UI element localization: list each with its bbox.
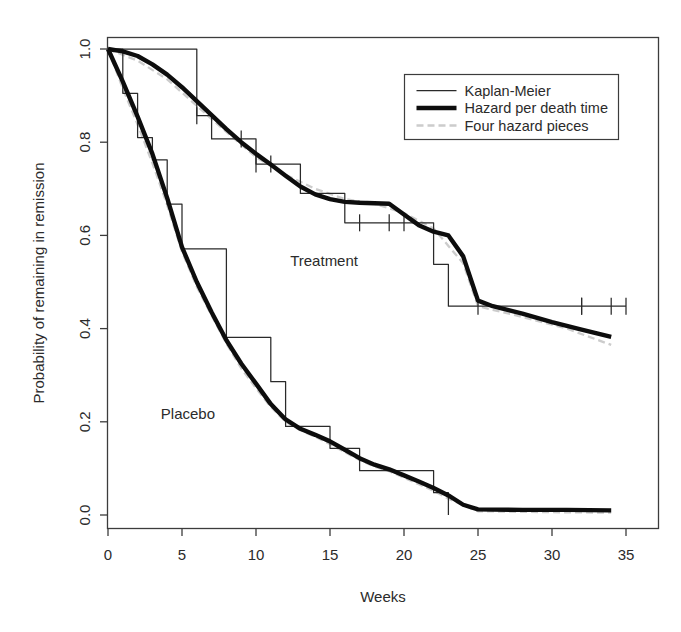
legend-label: Hazard per death time	[465, 100, 608, 116]
survival-plot-figure: 05101520253035Weeks0.00.20.40.60.81.0Pro…	[0, 0, 681, 632]
series-placebo-kaplan-meier	[108, 49, 448, 515]
y-tick-label: 0.2	[76, 411, 93, 432]
x-axis: 05101520253035Weeks	[104, 529, 635, 605]
legend-label: Kaplan-Meier	[465, 83, 551, 99]
x-tick-label: 35	[618, 546, 635, 563]
y-tick-label: 0.4	[76, 318, 93, 339]
x-axis-title: Weeks	[360, 588, 406, 605]
x-tick-label: 5	[178, 546, 186, 563]
group-label: Placebo	[161, 405, 215, 422]
legend: Kaplan-MeierHazard per death timeFour ha…	[405, 75, 619, 140]
x-tick-label: 15	[322, 546, 339, 563]
x-tick-label: 0	[104, 546, 112, 563]
y-tick-label: 0.6	[76, 225, 93, 246]
x-tick-label: 30	[544, 546, 561, 563]
plot-canvas: 05101520253035Weeks0.00.20.40.60.81.0Pro…	[0, 0, 681, 632]
y-tick-label: 0.0	[76, 505, 93, 526]
y-tick-label: 0.8	[76, 132, 93, 153]
x-tick-label: 10	[248, 546, 265, 563]
y-tick-label: 1.0	[76, 39, 93, 60]
series-line	[108, 49, 448, 515]
y-axis: 0.00.20.40.60.81.0Probability of remaini…	[30, 39, 108, 526]
y-axis-title: Probability of remaining in remission	[30, 163, 47, 404]
x-tick-label: 25	[470, 546, 487, 563]
group-label: Treatment	[290, 252, 359, 269]
x-tick-label: 20	[396, 546, 413, 563]
legend-label: Four hazard pieces	[465, 118, 589, 134]
